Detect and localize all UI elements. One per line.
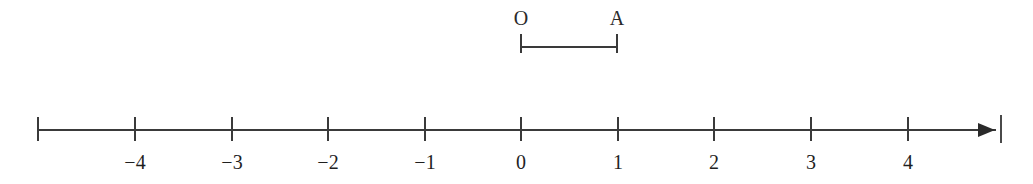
arrow-right-icon — [978, 123, 995, 137]
number-line-figure: O A −4−3−2−101234 — [0, 0, 1033, 184]
page-edge-rule — [1000, 115, 1002, 143]
axis-tick — [520, 117, 522, 141]
axis-tick — [617, 117, 619, 141]
axis-tick — [810, 117, 812, 141]
segment-end-cap — [616, 34, 618, 53]
axis-tick — [713, 117, 715, 141]
segment-end-label-a: A — [610, 8, 624, 28]
axis-tick-label: −1 — [414, 152, 435, 172]
axis-tick — [37, 117, 39, 141]
axis-tick-label: −4 — [124, 152, 145, 172]
axis-tick — [327, 117, 329, 141]
axis-tick — [231, 117, 233, 141]
axis-tick-label: 0 — [516, 152, 526, 172]
axis-tick — [907, 117, 909, 141]
axis-tick — [424, 117, 426, 141]
axis-tick-label: −2 — [317, 152, 338, 172]
segment-bar — [521, 46, 617, 48]
axis-tick — [134, 117, 136, 141]
axis-tick-label: 4 — [903, 152, 913, 172]
axis-tick-label: 1 — [613, 152, 623, 172]
segment-start-label-o: O — [514, 8, 528, 28]
axis-tick-label: 2 — [709, 152, 719, 172]
segment-start-cap — [520, 34, 522, 53]
axis-line — [38, 129, 996, 131]
axis-tick-label: −3 — [221, 152, 242, 172]
axis-tick-label: 3 — [806, 152, 816, 172]
